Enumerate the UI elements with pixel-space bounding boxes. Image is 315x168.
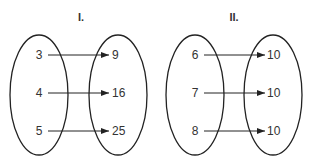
diagram-1: I. 3 4 5 9 16 25 [10,11,147,155]
mapping-diagrams: I. 3 4 5 9 16 25 II. 6 7 8 10 10 10 [0,0,315,168]
domain-value: 4 [36,86,43,100]
domain-value: 6 [192,48,199,62]
domain-value: 3 [36,48,43,62]
range-value: 25 [112,124,126,138]
range-value: 9 [112,48,119,62]
domain-value: 8 [192,124,199,138]
range-value: 10 [267,48,281,62]
diagram-1-title: I. [78,11,84,23]
domain-value: 5 [36,124,43,138]
range-value: 10 [267,86,281,100]
domain-value: 7 [192,86,199,100]
range-value: 16 [112,86,126,100]
diagram-2-title: II. [229,11,238,23]
range-value: 10 [267,124,281,138]
diagram-2: II. 6 7 8 10 10 10 [166,11,302,155]
